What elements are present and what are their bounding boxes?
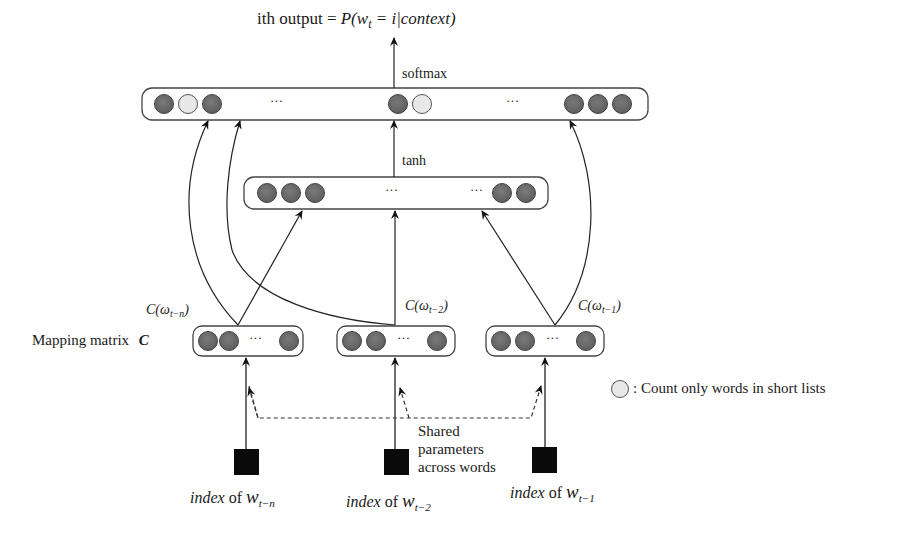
input-square-t-2 — [384, 449, 409, 475]
connections — [189, 121, 591, 325]
embedding-label-t-n: C(ωt−n) — [146, 302, 189, 319]
hidden-node — [493, 184, 512, 203]
input-label-t-2: index of wt−2 — [346, 490, 431, 513]
output-node — [389, 95, 408, 114]
embedding-ellipsis: ··· — [249, 330, 262, 346]
legend-text: : Count only words in short lists — [633, 380, 826, 397]
embedding-box-t-n — [193, 326, 303, 356]
shared-parameters-label: Shared parameters across words — [418, 422, 496, 476]
embedding-label-t-1: C(ωt−1) — [578, 298, 621, 315]
mapping-matrix-label: Mapping matrix C — [32, 332, 149, 349]
embedding-box-t-1 — [486, 326, 604, 356]
output-node — [203, 95, 222, 114]
hidden-node — [282, 184, 301, 203]
hidden-ellipsis: ··· — [470, 182, 483, 198]
embedding-ellipsis: ··· — [546, 330, 559, 346]
embedding-box-t-2 — [337, 326, 455, 356]
output-formula-prefix: ith output = — [257, 9, 341, 28]
embedding-label-t-2: C(ωt−2) — [405, 298, 448, 315]
hidden-node — [306, 184, 325, 203]
hidden-ellipsis: ··· — [385, 182, 398, 198]
output-ellipsis: ··· — [506, 93, 519, 109]
output-node — [155, 95, 174, 114]
output-formula: ith output = P(wt = i|context) — [257, 9, 456, 32]
output-ellipsis: ··· — [270, 93, 283, 109]
mapping-matrix-text: Mapping matrix — [32, 332, 129, 348]
output-node — [565, 95, 584, 114]
output-layer — [142, 88, 648, 120]
input-columns — [234, 358, 557, 475]
short-list-node — [413, 95, 432, 114]
embedding-ellipsis: ··· — [397, 330, 410, 346]
hidden-node — [517, 184, 536, 203]
legend-short-list-icon — [612, 381, 629, 398]
input-square-t-n — [234, 449, 259, 475]
input-label-t-n: index of wt−n — [190, 486, 275, 509]
input-label-t-1: index of wt−1 — [510, 481, 595, 504]
output-node — [613, 95, 632, 114]
output-formula-rest: = i|context) — [371, 9, 455, 28]
tanh-label: tanh — [402, 153, 426, 169]
input-square-t-1 — [532, 447, 557, 473]
output-node — [589, 95, 608, 114]
softmax-label: softmax — [402, 66, 447, 82]
short-list-node — [179, 95, 198, 114]
mapping-matrix-symbol: C — [139, 332, 149, 348]
hidden-node — [258, 184, 277, 203]
output-formula-p: P(w — [341, 9, 368, 28]
